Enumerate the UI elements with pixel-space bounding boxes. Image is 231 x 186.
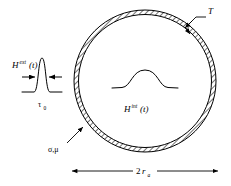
diameter-subscript: a xyxy=(148,172,151,178)
pulse-width-subscript: 0 xyxy=(44,105,47,111)
shell-hatching xyxy=(0,0,231,186)
diameter-prefix: 2 xyxy=(136,166,141,176)
physics-shell-diagram: H ext (t) τ 0 H int (t) T xyxy=(0,0,231,186)
internal-field-argument: (t) xyxy=(140,104,149,114)
external-field-argument: (t) xyxy=(29,60,38,70)
internal-field-superscript: int xyxy=(132,103,138,109)
diameter-symbol: r xyxy=(142,166,146,176)
material-properties-label: σ,μ xyxy=(48,145,59,154)
internal-field-symbol: H xyxy=(123,104,131,114)
conducting-shell xyxy=(0,0,231,186)
external-field-symbol: H xyxy=(11,60,19,70)
external-field-superscript: ext xyxy=(20,59,27,65)
diagram-canvas: H ext (t) τ 0 H int (t) T xyxy=(0,0,231,186)
